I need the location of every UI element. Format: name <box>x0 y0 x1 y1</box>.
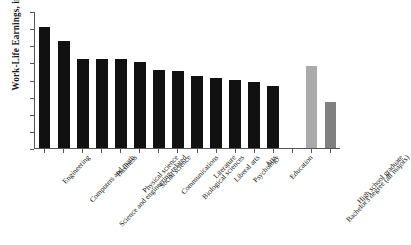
bar <box>267 86 279 148</box>
bar-slot <box>111 12 130 148</box>
bar <box>210 78 222 148</box>
x-axis-labels: EngineeringComputers and mathScience and… <box>34 151 340 243</box>
bar-slot <box>168 12 187 148</box>
x-axis-line <box>34 148 340 149</box>
bar-slot <box>302 12 321 148</box>
bar-slot <box>245 12 264 148</box>
bar-slot <box>321 12 340 148</box>
x-tick-label: Engineering <box>60 153 91 186</box>
bar-slot <box>207 12 226 148</box>
bar <box>77 59 89 148</box>
bar-slot <box>92 12 111 148</box>
y-tick-mark <box>30 115 34 116</box>
bar <box>115 59 127 148</box>
x-tick-label: High school graduate <box>356 153 406 205</box>
x-tick-label: Education <box>288 153 315 181</box>
y-tick-mark <box>30 63 34 64</box>
bar-slot <box>130 12 149 148</box>
y-tick-mark <box>30 29 34 30</box>
bar-slot <box>73 12 92 148</box>
bar <box>58 41 70 148</box>
bar-slot <box>54 12 73 148</box>
y-tick-mark <box>30 98 34 99</box>
x-tick-label: Bachelor's degree (all majors) <box>344 153 411 224</box>
bar-slot <box>35 12 54 148</box>
bar <box>325 102 337 148</box>
bar <box>229 80 241 148</box>
y-tick-mark <box>30 81 34 82</box>
bar <box>248 82 260 148</box>
bar <box>39 27 51 148</box>
bar <box>191 76 203 148</box>
bar-slot <box>149 12 168 148</box>
bar-slot <box>283 12 302 148</box>
plot-area: 00.511.522.533.54 <box>34 12 340 149</box>
bar-slot <box>264 12 283 148</box>
bar <box>96 59 108 148</box>
bar-slot <box>188 12 207 148</box>
y-tick-mark <box>30 132 34 133</box>
y-axis-title: Work-Life Earnings, in $Millions <box>11 0 21 93</box>
y-tick-mark <box>30 46 34 47</box>
bar <box>172 71 184 148</box>
bar-series <box>35 12 340 148</box>
bar <box>134 62 146 148</box>
bar-slot <box>226 12 245 148</box>
bar <box>306 66 318 148</box>
bar <box>153 70 165 148</box>
y-tick-mark <box>30 149 34 150</box>
y-tick-mark <box>30 12 34 13</box>
